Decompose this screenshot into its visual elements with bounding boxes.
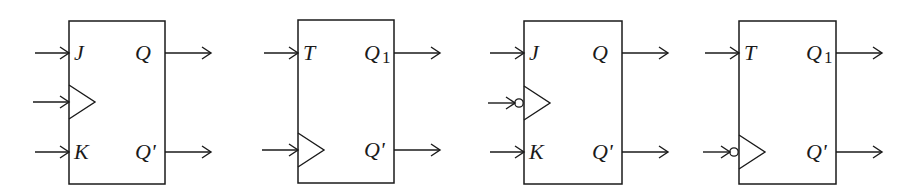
input-label-j: J	[74, 40, 85, 65]
output-label-q: Q	[364, 40, 380, 65]
flip-flop-jk-positive-edge: JKQQ'	[33, 21, 211, 184]
clock-triangle-icon	[69, 85, 95, 119]
clock-triangle-icon	[298, 133, 324, 167]
output-label-q-prime: Q'	[592, 139, 613, 164]
output-label-q-prime: Q'	[806, 139, 827, 164]
clock-triangle-icon	[739, 135, 765, 169]
output-subscript: 1	[382, 48, 391, 67]
input-label-t: T	[744, 40, 758, 65]
output-label-q: Q	[592, 40, 608, 65]
output-label-q: Q	[806, 40, 822, 65]
input-label-j: J	[529, 40, 540, 65]
input-label-k: K	[528, 139, 545, 164]
output-label-q: Q	[135, 40, 151, 65]
flip-flop-diagram: JKQQ'TQ1Q'JKQQ'TQ1Q'	[0, 0, 908, 192]
flip-flop-t-positive-edge: TQ1Q'	[262, 20, 440, 183]
output-label-q-prime: Q'	[364, 137, 385, 162]
output-subscript: 1	[824, 48, 833, 67]
flip-flop-t-negative-edge: TQ1Q'	[703, 21, 882, 184]
clock-triangle-icon	[524, 86, 550, 120]
input-label-t: T	[303, 40, 317, 65]
flip-flop-jk-negative-edge: JKQQ'	[488, 21, 668, 184]
diagram-svg: JKQQ'TQ1Q'JKQQ'TQ1Q'	[0, 0, 908, 192]
input-label-k: K	[73, 139, 90, 164]
output-label-q-prime: Q'	[135, 139, 156, 164]
